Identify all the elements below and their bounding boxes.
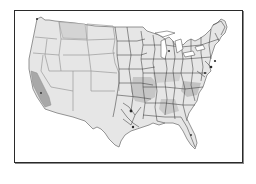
map-frame (14, 10, 243, 163)
map-canvas (0, 0, 256, 184)
us-district-map (15, 11, 242, 162)
